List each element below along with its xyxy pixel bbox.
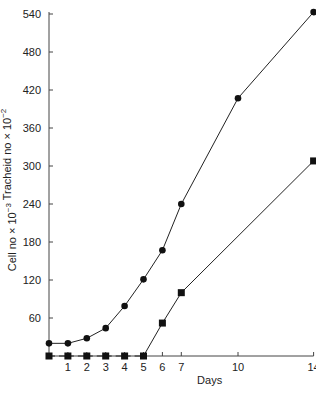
- x-tick-label: 14: [307, 361, 316, 373]
- y-tick-label: 180: [23, 236, 41, 248]
- x-tick-label: 10: [232, 361, 244, 373]
- x-tick-label: 2: [84, 361, 90, 373]
- circle-marker: [159, 247, 166, 254]
- x-axis-label: Days: [197, 374, 223, 386]
- chart-container: 6012018024030036042048054012345671014Day…: [0, 0, 316, 394]
- circle-marker: [121, 303, 128, 310]
- circle-marker: [178, 201, 185, 208]
- x-tick-label: 4: [122, 361, 128, 373]
- circle-marker: [140, 276, 147, 283]
- y-tick-label: 420: [23, 84, 41, 96]
- y-tick-label: 120: [23, 274, 41, 286]
- square-marker: [102, 353, 109, 360]
- x-tick-label: 7: [178, 361, 184, 373]
- y-tick-label: 540: [23, 8, 41, 20]
- y-tick-label: 360: [23, 122, 41, 134]
- y-axis-label: Cell no × 10−3 Tracheid no × 10−2: [0, 108, 18, 271]
- square-marker: [64, 353, 71, 360]
- y-tick-label: 240: [23, 198, 41, 210]
- x-tick-label: 6: [159, 361, 165, 373]
- square-marker: [178, 289, 185, 296]
- y-tick-label: 300: [23, 160, 41, 172]
- series-line-tracheid: [144, 323, 163, 356]
- square-marker: [46, 353, 53, 360]
- circle-marker: [235, 95, 242, 102]
- line-chart: 6012018024030036042048054012345671014Day…: [0, 0, 316, 394]
- square-marker: [83, 353, 90, 360]
- circle-marker: [102, 325, 109, 332]
- series-line-tracheid: [181, 161, 313, 293]
- x-tick-label: 3: [103, 361, 109, 373]
- circle-marker: [65, 340, 72, 347]
- square-marker: [310, 157, 316, 164]
- y-tick-label: 60: [29, 312, 41, 324]
- circle-marker: [84, 335, 91, 342]
- square-marker: [121, 353, 128, 360]
- x-tick-label: 5: [140, 361, 146, 373]
- x-tick-label: 1: [65, 361, 71, 373]
- square-marker: [159, 320, 166, 327]
- series-line-tracheid: [162, 293, 181, 323]
- square-marker: [140, 353, 147, 360]
- circle-marker: [46, 340, 53, 347]
- y-tick-label: 480: [23, 46, 41, 58]
